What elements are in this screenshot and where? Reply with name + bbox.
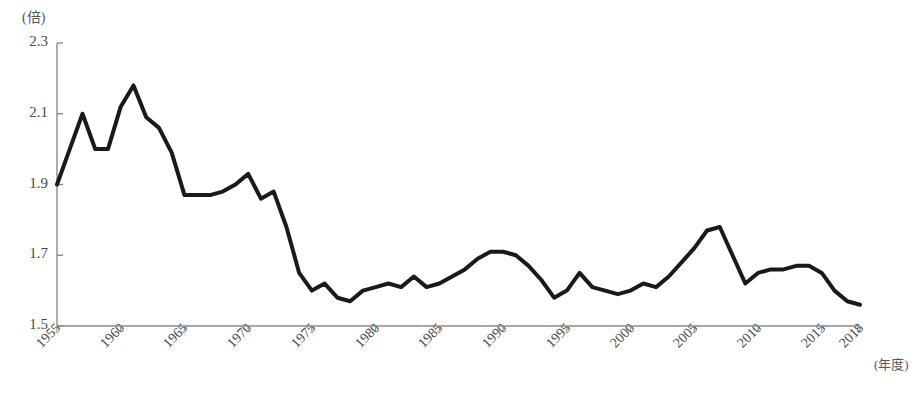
chart-series bbox=[57, 85, 860, 304]
line-chart-plot bbox=[0, 0, 924, 395]
chart-container: (倍) 2.32.11.91.71.5 19551960196519701975… bbox=[0, 0, 924, 395]
x-axis-unit-label: (年度) bbox=[874, 354, 909, 373]
data-line-倍率 bbox=[57, 85, 860, 304]
chart-axes bbox=[57, 43, 860, 331]
